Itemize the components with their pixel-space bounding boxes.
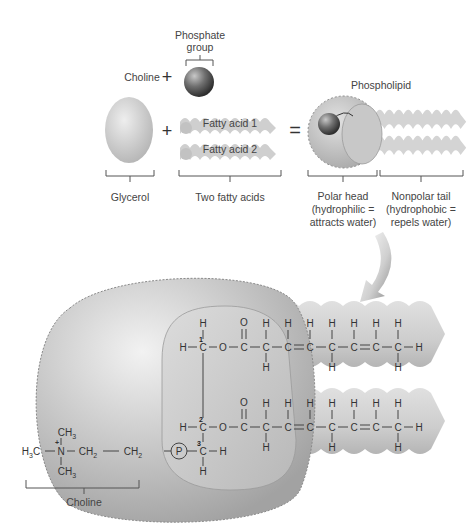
svg-text:H: H	[284, 318, 291, 329]
fatty-acid-1-label: Fatty acid 1	[203, 117, 257, 129]
svg-text:H: H	[199, 466, 206, 477]
two-fatty-acids-bracket	[179, 170, 281, 182]
svg-text:C: C	[372, 422, 379, 433]
svg-text:H: H	[179, 342, 186, 353]
svg-text:C: C	[372, 342, 379, 353]
svg-text:H: H	[262, 442, 269, 453]
svg-text:H: H	[284, 398, 291, 409]
svg-text:C: C	[199, 342, 206, 353]
svg-text:C: C	[394, 422, 401, 433]
svg-text:H: H	[350, 318, 357, 329]
phosphate-bracket	[186, 55, 213, 66]
svg-text:H3C: H3C	[22, 446, 40, 459]
svg-text:H: H	[350, 398, 357, 409]
svg-text:C: C	[306, 342, 313, 353]
svg-text:C: C	[350, 422, 357, 433]
svg-text:+: +	[55, 439, 59, 446]
nonpolar-tail-line3: repels water)	[391, 216, 452, 228]
polar-head-line2: (hydrophilic =	[312, 203, 375, 215]
svg-text:H: H	[394, 398, 401, 409]
svg-text:C: C	[284, 342, 291, 353]
svg-text:O: O	[219, 422, 227, 433]
phosphate-label-line2: group	[187, 41, 214, 53]
svg-text:H: H	[328, 318, 335, 329]
plus-sign-1: +	[162, 67, 173, 87]
svg-text:H: H	[219, 446, 226, 457]
svg-text:C: C	[240, 422, 247, 433]
svg-text:H: H	[394, 362, 401, 373]
two-fatty-acids-label: Two fatty acids	[195, 191, 264, 203]
svg-text:H: H	[262, 362, 269, 373]
phospholipid-label: Phospholipid	[351, 79, 411, 91]
phospholipid-icon	[308, 96, 466, 168]
svg-text:C: C	[199, 446, 206, 457]
phospholipid-diagram: Phosphate group Choline + + Fatty acid 1…	[0, 0, 474, 531]
svg-text:O: O	[240, 317, 248, 328]
polar-head-line3: attracts water)	[310, 216, 377, 228]
svg-text:H: H	[372, 318, 379, 329]
svg-text:H: H	[328, 442, 335, 453]
polar-head-line1: Polar head	[318, 190, 369, 202]
svg-text:C: C	[394, 342, 401, 353]
svg-text:H: H	[199, 318, 206, 329]
svg-text:C: C	[240, 342, 247, 353]
svg-text:C: C	[328, 342, 335, 353]
svg-text:O: O	[219, 342, 227, 353]
choline-label: Choline	[124, 71, 160, 83]
glycerol-label: Glycerol	[111, 191, 150, 203]
equals-sign: =	[289, 119, 301, 141]
svg-text:O: O	[240, 397, 248, 408]
svg-text:C: C	[262, 342, 269, 353]
glycerol-region	[162, 306, 296, 490]
svg-text:H: H	[328, 362, 335, 373]
glycerol-shape	[105, 97, 153, 163]
plus-sign-2: +	[162, 121, 173, 141]
phosphate-symbol: P	[176, 446, 183, 457]
svg-text:C: C	[328, 422, 335, 433]
phosphate-label-line1: Phosphate	[175, 29, 225, 41]
svg-text:H: H	[179, 422, 186, 433]
svg-text:C: C	[199, 422, 206, 433]
svg-text:H: H	[328, 398, 335, 409]
nonpolar-tail-bracket	[380, 170, 463, 182]
svg-text:H: H	[394, 318, 401, 329]
nonpolar-tail-line2: (hydrophobic =	[386, 203, 456, 215]
svg-text:H: H	[415, 342, 422, 353]
curved-arrow-icon	[360, 232, 391, 302]
phosphate-sphere-icon	[184, 67, 214, 97]
svg-text:H: H	[306, 318, 313, 329]
svg-text:H: H	[415, 422, 422, 433]
phosphate-group: Phosphate group	[175, 29, 225, 97]
polar-head-bracket	[308, 170, 377, 182]
svg-text:C: C	[284, 422, 291, 433]
svg-text:C: C	[350, 342, 357, 353]
svg-text:C: C	[262, 422, 269, 433]
choline-structure-label: Choline	[66, 496, 102, 508]
svg-text:H: H	[262, 318, 269, 329]
svg-text:N: N	[57, 446, 64, 457]
glycerol-bracket	[106, 170, 154, 182]
svg-text:H: H	[306, 398, 313, 409]
svg-text:H: H	[262, 398, 269, 409]
nonpolar-tail-line1: Nonpolar tail	[392, 190, 451, 202]
svg-text:H: H	[372, 398, 379, 409]
svg-text:H: H	[394, 442, 401, 453]
fatty-acid-2-label: Fatty acid 2	[203, 143, 257, 155]
svg-text:C: C	[306, 422, 313, 433]
